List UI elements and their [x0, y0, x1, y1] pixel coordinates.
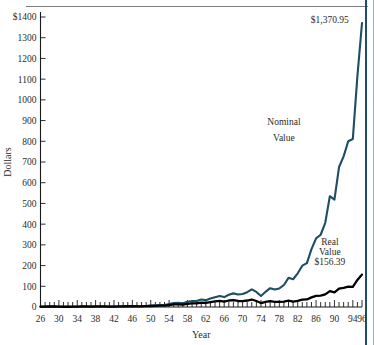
x-axis-tick-label: 96 [357, 314, 367, 324]
line-chart-svg: 0100200300400500600700800900100011001200… [0, 0, 374, 345]
nominal-series-label-line1: Nominal [267, 117, 301, 127]
x-axis-tick-label: 78 [275, 314, 285, 324]
y-axis-tick-label: 500 [22, 199, 37, 209]
real-series-label-line2: Value [319, 247, 341, 257]
y-axis-tick-label: 0 [32, 302, 37, 312]
real-peak-label: $156.39 [314, 257, 345, 267]
x-axis-tick-label: 82 [293, 314, 303, 324]
y-axis-tick-label: 300 [22, 240, 37, 250]
real-value-line [41, 275, 363, 307]
x-axis-tick-label: 50 [146, 314, 156, 324]
x-axis-tick-label: 38 [91, 314, 101, 324]
x-axis-tick-label: 58 [183, 314, 193, 324]
y-axis-tick-label: 1000 [18, 95, 37, 105]
y-axis-tick-label: 800 [22, 137, 37, 147]
real-series-label-line1: Real [321, 237, 339, 247]
x-axis-tick-label: 66 [219, 314, 229, 324]
y-axis-tick-label: 600 [22, 178, 37, 188]
y-axis-tick-label: 1300 [18, 33, 37, 43]
x-axis-tick-label: 62 [201, 314, 211, 324]
x-axis-tick-label: 30 [54, 314, 64, 324]
nominal-series-label-line2: Value [273, 133, 295, 143]
x-axis-tick-label: 86 [311, 314, 321, 324]
y-axis-tick-label: $1400 [13, 12, 37, 22]
x-axis-tick-label: 34 [72, 314, 82, 324]
x-axis-tick-label: 74 [256, 314, 266, 324]
x-axis-tick-label: 46 [128, 314, 138, 324]
y-axis-title: Dollars [2, 147, 13, 177]
x-axis-title: Year [192, 329, 211, 340]
nominal-peak-label: $1,370.95 [311, 15, 349, 25]
chart-figure: 0100200300400500600700800900100011001200… [0, 0, 374, 345]
x-axis-tick-label: 26 [36, 314, 46, 324]
y-axis-tick-label: 100 [22, 282, 37, 292]
x-axis-tick-label: 70 [238, 314, 248, 324]
y-axis-tick-label: 200 [22, 261, 37, 271]
y-axis-tick-label: 1200 [18, 54, 37, 64]
y-axis-tick-label: 900 [22, 116, 37, 126]
x-axis-tick-label: 90 [330, 314, 340, 324]
x-axis-tick-label: 42 [109, 314, 119, 324]
y-axis-tick-label: 700 [22, 157, 37, 167]
x-axis-tick-label: 54 [164, 314, 174, 324]
y-axis-tick-label: 1100 [18, 75, 37, 85]
y-axis-tick-label: 400 [22, 220, 37, 230]
